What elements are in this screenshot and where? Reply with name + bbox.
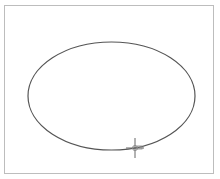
crosshair-move-icon	[126, 138, 144, 158]
drawing-layer[interactable]	[0, 0, 220, 179]
ellipse-shape[interactable]	[28, 42, 195, 150]
